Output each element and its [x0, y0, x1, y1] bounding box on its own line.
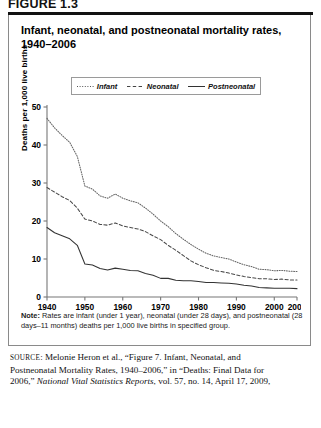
- legend-label-neonatal: Neonatal: [147, 82, 179, 91]
- series-line-postneonatal: [47, 227, 297, 288]
- mortality-line-chart: 0102030405019401950196019701980199020002…: [21, 101, 301, 329]
- figure-card: Infant, neonatal, and postneonatal morta…: [8, 15, 311, 346]
- dashed-line-icon: [127, 84, 144, 89]
- svg-text:10: 10: [32, 254, 42, 264]
- svg-text:50: 50: [32, 102, 42, 112]
- source-line2: Postneonatal Mortality Rates, 1940–2006,…: [10, 365, 264, 375]
- note-prefix: Note:: [21, 311, 40, 320]
- source-publication: National Vital Statistics Reports: [37, 376, 154, 386]
- legend-item-neonatal: Neonatal: [127, 82, 179, 91]
- legend-item-infant: Infant: [77, 82, 117, 91]
- dotted-line-icon: [77, 84, 94, 89]
- note-text: Rates are infant (under 1 year), neonata…: [21, 311, 302, 330]
- y-axis-label: Deaths per 1,000 live births: [20, 45, 29, 151]
- legend-label-infant: Infant: [97, 82, 117, 91]
- series-line-infant: [47, 118, 297, 271]
- legend-item-postneonatal: Postneonatal: [188, 82, 255, 91]
- chart-legend: Infant Neonatal Postneonatal: [71, 77, 261, 95]
- figure-title: Infant, neonatal, and postneonatal morta…: [21, 24, 293, 51]
- svg-text:0: 0: [36, 292, 41, 302]
- source-line3-post: , vol. 57, no. 14, April 17, 2009,: [154, 376, 271, 386]
- legend-label-postneonatal: Postneonatal: [208, 82, 255, 91]
- source-line3-pre: 2006,”: [10, 376, 37, 386]
- chart-plot-area: Deaths per 1,000 live births 01020304050…: [21, 101, 301, 329]
- source-line1: : Melonie Heron et al., “Figure 7. Infan…: [40, 352, 241, 362]
- svg-text:40: 40: [32, 140, 42, 150]
- series-line-neonatal: [47, 188, 297, 280]
- svg-text:20: 20: [32, 216, 42, 226]
- figure-label: FIGURE 1.3: [8, 0, 78, 11]
- figure-note: Note: Rates are infant (under 1 year), n…: [21, 311, 303, 330]
- svg-text:30: 30: [32, 178, 42, 188]
- figure-source: SOURCE: Melonie Heron et al., “Figure 7.…: [10, 352, 310, 388]
- solid-line-icon: [188, 84, 205, 89]
- source-prefix: SOURCE: [10, 354, 40, 362]
